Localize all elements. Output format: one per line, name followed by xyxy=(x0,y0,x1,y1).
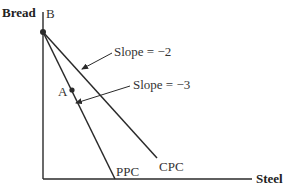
cpc-label: CPC xyxy=(159,159,184,174)
cpc-slope-arrow xyxy=(82,53,112,69)
ppc-slope-arrow xyxy=(76,86,130,103)
ppc-slope-label: Slope = −3 xyxy=(133,77,190,92)
point-b-label: B xyxy=(46,6,55,21)
point-b-marker xyxy=(40,29,46,35)
cpc-slope-label: Slope = −2 xyxy=(114,44,171,59)
ppc-label: PPC xyxy=(116,164,139,179)
diagram-canvas: Bread Steel B A Slope = −2 Slope = −3 PP… xyxy=(0,0,294,193)
y-axis-label: Bread xyxy=(2,5,36,20)
point-a-label: A xyxy=(58,84,68,99)
ppc-line xyxy=(43,32,115,179)
point-a-marker xyxy=(69,87,74,92)
x-axis-label: Steel xyxy=(256,171,283,186)
